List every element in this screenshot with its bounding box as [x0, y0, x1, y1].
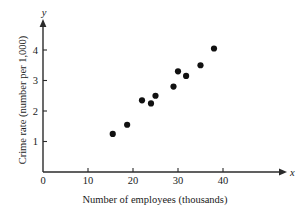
- data-point: [148, 100, 154, 106]
- x-tick-label: 20: [128, 175, 139, 186]
- data-point: [139, 97, 145, 103]
- y-tick-label: 4: [33, 45, 39, 56]
- x-tick-label: 0: [40, 175, 45, 186]
- data-point: [175, 68, 181, 74]
- x-axis-title: Number of employees (thousands): [83, 194, 228, 206]
- y-tick-label: 2: [33, 106, 38, 117]
- x-tick-label: 30: [173, 175, 184, 186]
- data-points: [110, 45, 217, 137]
- x-tick-label: 40: [218, 175, 229, 186]
- data-point: [197, 62, 203, 68]
- data-point: [124, 122, 130, 128]
- x-tick-label: 10: [83, 175, 94, 186]
- axis-ticks: [43, 50, 223, 172]
- y-axis-variable-symbol: y: [41, 7, 47, 18]
- data-point: [211, 45, 217, 51]
- y-tick-label: 1: [33, 136, 38, 147]
- scatter-plot-figure: 0102030401234 xyNumber of employees (tho…: [0, 0, 300, 213]
- data-point: [183, 73, 189, 79]
- data-point: [110, 131, 116, 137]
- axes: [40, 19, 287, 175]
- x-axis-variable-symbol: x: [289, 167, 295, 178]
- axis-titles: xyNumber of employees (thousands)Crime r…: [17, 7, 295, 206]
- data-point: [152, 93, 158, 99]
- x-axis-arrow-icon: [279, 169, 287, 176]
- y-tick-label: 3: [33, 75, 38, 86]
- y-axis-title: Crime rate (number per 1,000): [17, 35, 29, 164]
- y-axis-arrow-icon: [40, 19, 47, 27]
- plot-canvas: 0102030401234 xyNumber of employees (tho…: [0, 0, 300, 213]
- data-point: [170, 84, 176, 90]
